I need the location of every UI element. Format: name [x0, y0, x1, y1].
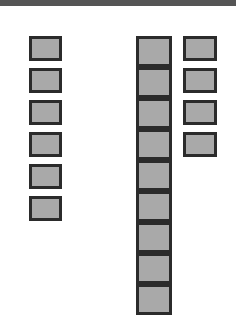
left-stack-tile[interactable] — [29, 132, 62, 157]
center-stack-tile[interactable] — [136, 284, 172, 315]
right-stack-tile[interactable] — [183, 132, 217, 157]
right-stack-tile[interactable] — [183, 36, 217, 61]
top-bar — [0, 0, 236, 6]
left-stack-tile[interactable] — [29, 196, 62, 221]
center-stack-tile[interactable] — [136, 98, 172, 129]
center-stack-tile[interactable] — [136, 129, 172, 160]
center-stack-tile[interactable] — [136, 36, 172, 67]
left-stack-tile[interactable] — [29, 100, 62, 125]
right-stack-tile[interactable] — [183, 68, 217, 93]
center-stack-tile[interactable] — [136, 67, 172, 98]
center-stack-tile[interactable] — [136, 253, 172, 284]
left-stack-tile[interactable] — [29, 36, 62, 61]
center-stack-tile[interactable] — [136, 191, 172, 222]
center-stack-tile[interactable] — [136, 160, 172, 191]
left-stack-tile[interactable] — [29, 68, 62, 93]
right-stack-tile[interactable] — [183, 100, 217, 125]
left-stack-tile[interactable] — [29, 164, 62, 189]
center-stack-tile[interactable] — [136, 222, 172, 253]
